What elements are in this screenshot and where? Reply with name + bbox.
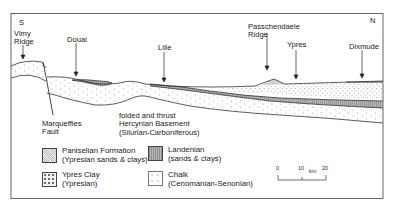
legend-label-paniselian: Paniselian Formation(Ypresian sands & cl…	[62, 147, 148, 164]
south-marker: S	[19, 19, 24, 27]
scale-tick-10: 10	[298, 165, 304, 171]
north-marker: N	[370, 17, 375, 25]
legend-swatch-paniselian	[42, 148, 57, 163]
legend-label-landenian: Landenian(sands & clays)	[168, 146, 221, 163]
ypres-label: Ypres	[287, 41, 306, 49]
legend-swatch-landenian	[148, 146, 163, 161]
vimy-ridge-label: VimyRidge	[14, 30, 34, 47]
scale-bar	[278, 175, 326, 180]
scale-tick-0: 0	[276, 165, 279, 171]
legend-swatch-chalk	[148, 171, 163, 186]
legend-label-ypres-clay: Ypres Clay(Ypresian)	[62, 171, 100, 188]
legend-swatch-ypres-clay	[42, 172, 57, 187]
lille-label: Lille	[158, 44, 172, 52]
scale-tick-20: 20	[322, 165, 328, 171]
passchendaele-ridge-label: PasschendaeleRidge	[248, 23, 300, 40]
dixmude-label: Dixmude	[349, 43, 379, 51]
legend-label-chalk: Chalk(Cenomanian-Senonian)	[168, 171, 253, 188]
marqueffies-fault-label: MarqueffiesFault	[42, 120, 82, 137]
douai-label: Douai	[67, 36, 87, 44]
scale-unit: km	[309, 168, 316, 174]
basement-label: folded and thrust Hercynian Basement (Si…	[119, 112, 200, 137]
